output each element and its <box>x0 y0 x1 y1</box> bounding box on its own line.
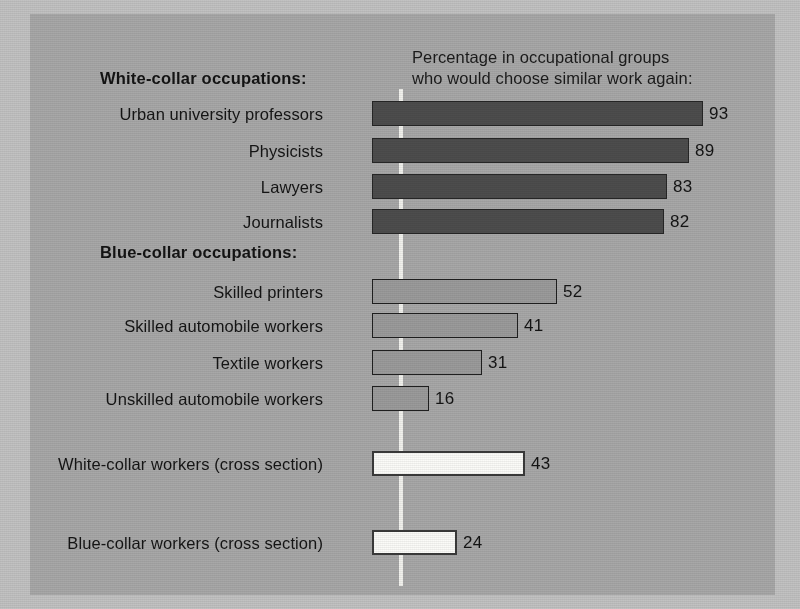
chart-panel: Percentage in occupational groups who wo… <box>30 14 775 595</box>
bar-value-label: 89 <box>695 141 714 161</box>
bar-value-label: 31 <box>488 353 507 373</box>
bar-row: Urban university professors93 <box>30 101 775 127</box>
bar <box>372 209 664 234</box>
bar <box>372 279 557 304</box>
bar-value-label: 16 <box>435 389 454 409</box>
bar <box>372 530 457 555</box>
bar-row-label: Textile workers <box>212 354 323 373</box>
bar-row: Journalists82 <box>30 209 775 235</box>
bar <box>372 350 482 375</box>
bar-row: Blue-collar workers (cross section)24 <box>30 530 775 556</box>
bar-row-label: Journalists <box>243 213 323 232</box>
bar-value-label: 52 <box>563 282 582 302</box>
bar-row: White-collar workers (cross section)43 <box>30 451 775 477</box>
bar-row-label: Skilled automobile workers <box>124 317 323 336</box>
bar-row: Skilled printers52 <box>30 279 775 305</box>
bar-row: Textile workers31 <box>30 350 775 376</box>
section-heading-2: Blue-collar occupations: <box>100 243 297 262</box>
bar-row-label: Blue-collar workers (cross section) <box>67 534 323 553</box>
bar-row-label: Unskilled automobile workers <box>106 390 323 409</box>
bar <box>372 313 518 338</box>
bar-row: Physicists89 <box>30 138 775 164</box>
section-heading-1: White-collar occupations: <box>100 69 307 88</box>
chart-page: Percentage in occupational groups who wo… <box>0 0 800 609</box>
bar-row: Unskilled automobile workers16 <box>30 386 775 412</box>
bar <box>372 386 429 411</box>
bar-value-label: 41 <box>524 316 543 336</box>
chart-title: Percentage in occupational groups who wo… <box>412 47 772 89</box>
bar-value-label: 83 <box>673 177 692 197</box>
bar-row-label: White-collar workers (cross section) <box>58 455 323 474</box>
bar <box>372 138 689 163</box>
bar-row: Lawyers83 <box>30 174 775 200</box>
bar-value-label: 82 <box>670 212 689 232</box>
bar-row-label: Physicists <box>249 142 323 161</box>
bar-value-label: 43 <box>531 454 550 474</box>
bar <box>372 101 703 126</box>
bar-row-label: Skilled printers <box>213 283 323 302</box>
bar-row-label: Urban university professors <box>119 105 323 124</box>
bar <box>372 451 525 476</box>
bar <box>372 174 667 199</box>
bar-value-label: 24 <box>463 533 482 553</box>
bar-row-label: Lawyers <box>261 178 323 197</box>
bar-value-label: 93 <box>709 104 728 124</box>
bar-row: Skilled automobile workers41 <box>30 313 775 339</box>
